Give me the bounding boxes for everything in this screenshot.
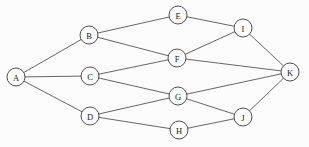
graph-node-f[interactable]: F xyxy=(168,49,186,67)
graph-diagram-canvas: ABCDEFGHIJK xyxy=(0,0,309,147)
graph-edge-d-h xyxy=(99,117,170,128)
node-layer: ABCDEFGHIJK xyxy=(7,6,299,139)
graph-node-label-b: B xyxy=(86,31,92,41)
graph-edge-b-f xyxy=(98,37,169,55)
graph-edge-e-i xyxy=(187,17,234,26)
graph-edge-i-k xyxy=(250,34,284,66)
graph-edge-g-k xyxy=(187,74,281,94)
graph-node-i[interactable]: I xyxy=(234,19,252,37)
graph-node-label-d: D xyxy=(87,112,93,122)
graph-node-label-g: G xyxy=(175,92,181,102)
graph-node-j[interactable]: J xyxy=(234,108,252,126)
graph-edge-c-g xyxy=(99,78,169,94)
graph-diagram: ABCDEFGHIJK xyxy=(0,0,309,147)
graph-node-label-k: K xyxy=(287,68,294,78)
graph-edge-a-b xyxy=(24,39,81,72)
graph-node-k[interactable]: K xyxy=(281,63,299,81)
graph-node-b[interactable]: B xyxy=(80,26,98,44)
graph-node-e[interactable]: E xyxy=(169,6,187,24)
graph-edge-f-i xyxy=(185,32,235,55)
graph-node-g[interactable]: G xyxy=(169,87,187,105)
graph-edge-a-d xyxy=(24,81,82,112)
graph-node-c[interactable]: C xyxy=(81,67,99,85)
graph-node-h[interactable]: H xyxy=(170,121,188,139)
graph-edge-h-j xyxy=(188,119,234,128)
graph-edge-g-j xyxy=(187,99,235,114)
graph-node-label-h: H xyxy=(176,126,182,136)
graph-edge-f-k xyxy=(186,59,281,71)
graph-edge-j-k xyxy=(250,78,284,111)
graph-node-label-c: C xyxy=(87,72,93,82)
graph-node-label-e: E xyxy=(175,11,180,21)
graph-node-a[interactable]: A xyxy=(7,68,25,86)
graph-node-label-i: I xyxy=(242,24,245,34)
graph-edge-a-c xyxy=(25,76,81,77)
graph-node-d[interactable]: D xyxy=(81,107,99,125)
graph-node-label-f: F xyxy=(175,54,180,64)
graph-node-label-a: A xyxy=(13,73,20,83)
graph-edge-c-f xyxy=(99,60,168,74)
graph-edge-d-g xyxy=(99,98,169,114)
graph-edge-b-e xyxy=(98,17,169,33)
